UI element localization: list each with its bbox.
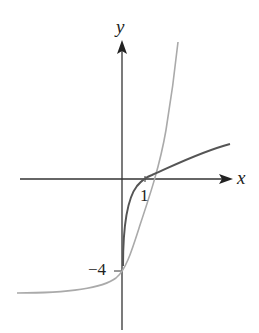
exponential-curve — [17, 42, 178, 293]
y-axis-label: y — [116, 16, 124, 38]
y-tick-label: −4 — [88, 260, 106, 280]
x-axis-label: x — [237, 167, 245, 189]
graph-canvas — [0, 0, 259, 333]
x-tick-label: 1 — [140, 186, 149, 206]
